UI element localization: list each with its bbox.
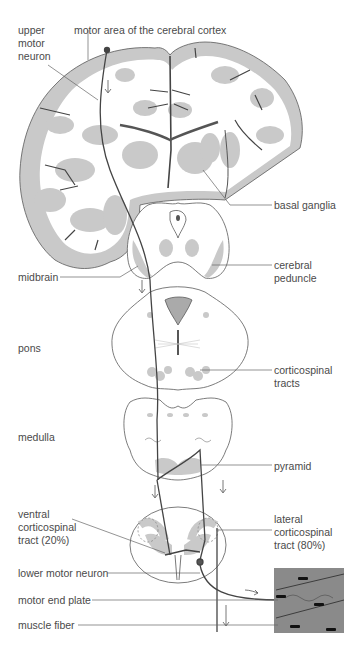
midbrain-section — [127, 203, 229, 278]
label-medulla: medulla — [18, 431, 55, 444]
label-basal-ganglia: basal ganglia — [274, 199, 336, 212]
label-motor-area: motor area of the cerebral cortex — [74, 24, 226, 37]
label-cerebral-peduncle: cerebral peduncle — [274, 259, 317, 285]
label-corticospinal-tracts: corticospinal tracts — [274, 364, 332, 390]
motor-pathway-diagram: upper motor neuron motor area of the cer… — [0, 0, 358, 652]
pons-section — [112, 287, 248, 390]
spinal-cord-section — [130, 507, 226, 583]
diagram-artwork — [0, 0, 358, 652]
label-motor-end-plate: motor end plate — [18, 594, 91, 607]
label-upper-motor-neuron: upper motor neuron — [18, 24, 51, 63]
label-muscle-fiber: muscle fiber — [18, 619, 75, 632]
muscle-fiber — [274, 568, 344, 633]
label-midbrain: midbrain — [18, 271, 58, 284]
label-lower-motor-neuron: lower motor neuron — [18, 567, 108, 580]
medulla-section — [124, 398, 232, 480]
label-ventral-corticospinal-tract: ventral corticospinal tract (20%) — [18, 508, 76, 547]
label-lateral-corticospinal-tract: lateral corticospinal tract (80%) — [274, 513, 332, 552]
label-pons: pons — [18, 342, 41, 355]
label-pyramid: pyramid — [274, 460, 311, 473]
